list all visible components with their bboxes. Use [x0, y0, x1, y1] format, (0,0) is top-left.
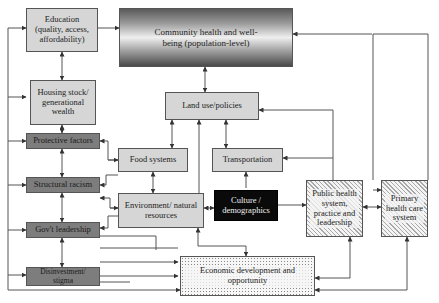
node-education-label: Education (quality, access, affordabilit…: [30, 15, 94, 44]
node-govt-leadership: Gov't leadership: [26, 222, 100, 238]
node-disinvestment-label: Disinvestment/ stigma: [30, 268, 96, 285]
node-structural-racism: Structural racism: [26, 177, 100, 193]
node-public-health-label: Public health system, practice and leade…: [310, 189, 359, 228]
node-environment: Environment/ natural resources: [118, 193, 204, 228]
node-food-systems-label: Food systems: [130, 155, 177, 165]
node-economic-development-label: Economic development and opportunity: [184, 266, 311, 286]
node-culture-demographics: Culture / demographics: [214, 190, 278, 221]
node-disinvestment: Disinvestment/ stigma: [26, 267, 100, 286]
node-primary-care-label: Primary health care system: [385, 194, 424, 223]
node-culture-demographics-label: Culture / demographics: [218, 196, 274, 216]
node-transportation: Transportation: [212, 148, 283, 172]
node-economic-development: Economic development and opportunity: [180, 256, 315, 296]
node-housing: Housing stock/ generational wealth: [30, 80, 96, 125]
node-land-use-label: Land use/policies: [182, 101, 242, 111]
node-govt-leadership-label: Gov't leadership: [35, 225, 91, 235]
node-food-systems: Food systems: [118, 148, 188, 172]
node-community-health-label: Community health and well-being (populat…: [149, 27, 264, 48]
node-education: Education (quality, access, affordabilit…: [26, 8, 98, 52]
node-protective-factors-label: Protective factors: [33, 136, 93, 146]
node-primary-care: Primary health care system: [381, 180, 428, 237]
node-environment-label: Environment/ natural resources: [122, 201, 200, 221]
node-land-use: Land use/policies: [165, 92, 259, 120]
node-housing-label: Housing stock/ generational wealth: [34, 88, 92, 117]
node-transportation-label: Transportation: [223, 155, 273, 165]
node-public-health: Public health system, practice and leade…: [306, 180, 363, 237]
node-protective-factors: Protective factors: [26, 133, 100, 149]
node-community-health: Community health and well-being (populat…: [119, 8, 293, 67]
node-structural-racism-label: Structural racism: [34, 180, 92, 190]
